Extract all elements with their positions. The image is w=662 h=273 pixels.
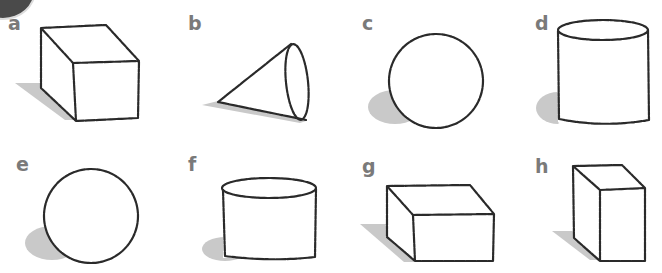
shapes-canvas [0, 0, 662, 273]
cube-shape-a [15, 25, 139, 121]
cuboid-shape-g [360, 185, 494, 262]
cylinder-shape-d [536, 20, 649, 127]
cuboid-shape-h [552, 165, 645, 261]
cone-shape-b [202, 38, 313, 123]
cylinder-shape-f [202, 178, 316, 261]
sphere-shape-e [25, 169, 138, 263]
sphere-shape-c [368, 34, 483, 128]
